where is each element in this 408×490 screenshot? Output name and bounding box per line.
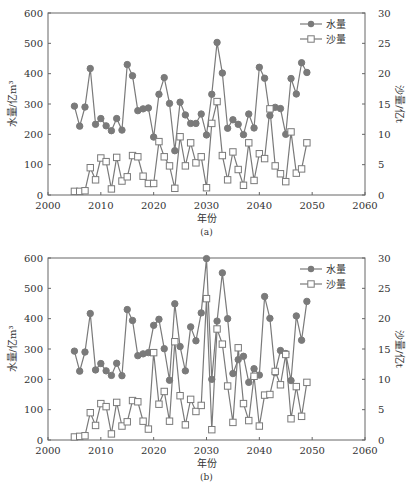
data-point-circle: [113, 360, 119, 366]
y-tick-label: 200: [24, 374, 43, 385]
chart-svg: 2000201020202030204020502060010020030040…: [0, 0, 408, 245]
data-point-circle: [198, 111, 204, 117]
data-point-square: [203, 185, 209, 191]
data-point-square: [172, 185, 178, 191]
data-point-square: [193, 160, 199, 166]
y-tick-label: 200: [24, 129, 43, 140]
data-point-square: [235, 166, 241, 172]
data-point-square: [135, 399, 141, 405]
y-tick-label: 400: [24, 313, 43, 324]
data-point-circle: [124, 306, 130, 312]
data-point-square: [156, 401, 162, 407]
data-point-circle: [108, 372, 114, 378]
data-point-circle: [304, 69, 310, 75]
legend-square-icon: [308, 36, 314, 42]
data-point-circle: [172, 148, 178, 154]
y-tick-label: 300: [24, 99, 43, 110]
series-water: [71, 255, 310, 385]
x-tick-label: 2030: [194, 445, 219, 456]
x-tick-label: 2050: [299, 200, 324, 211]
data-point-square: [214, 326, 220, 332]
data-point-circle: [177, 99, 183, 105]
y2-tick-label: 20: [378, 313, 391, 324]
data-point-square: [230, 149, 236, 155]
data-point-square: [166, 163, 172, 169]
data-point-circle: [288, 377, 294, 383]
data-point-circle: [246, 379, 252, 385]
y-axis-label: 水量/亿m³: [6, 326, 18, 373]
data-point-circle: [235, 121, 241, 127]
data-point-circle: [230, 370, 236, 376]
data-point-circle: [251, 125, 257, 131]
data-point-circle: [71, 348, 77, 354]
data-point-square: [219, 152, 225, 158]
data-point-circle: [193, 338, 199, 344]
data-point-circle: [246, 111, 252, 117]
data-point-circle: [156, 91, 162, 97]
data-point-square: [103, 403, 109, 409]
data-point-circle: [203, 132, 209, 138]
data-point-circle: [293, 91, 299, 97]
data-point-circle: [182, 368, 188, 374]
data-point-circle: [108, 127, 114, 133]
data-point-circle: [277, 105, 283, 111]
data-point-square: [272, 163, 278, 169]
x-tick-label: 2010: [88, 445, 113, 456]
chart-panel-a: 2000201020202030204020502060010020030040…: [0, 0, 408, 245]
data-point-circle: [261, 75, 267, 81]
data-point-square: [145, 426, 151, 432]
data-point-circle: [161, 74, 167, 80]
data-point-circle: [193, 120, 199, 126]
data-point-square: [161, 388, 167, 394]
data-point-circle: [71, 103, 77, 109]
data-point-circle: [77, 123, 83, 129]
y-tick-label: 400: [24, 68, 43, 79]
plot-area: [48, 13, 365, 195]
data-point-circle: [219, 70, 225, 76]
y2-tick-label: 25: [378, 38, 391, 49]
data-point-square: [251, 373, 257, 379]
data-point-circle: [98, 115, 104, 121]
data-point-circle: [92, 121, 98, 127]
x-tick-label: 2040: [247, 445, 272, 456]
data-point-square: [92, 422, 98, 428]
data-point-circle: [240, 131, 246, 137]
data-point-circle: [298, 337, 304, 343]
legend-label: 沙量: [326, 279, 346, 290]
y-tick-label: 100: [24, 404, 43, 415]
y2-tick-label: 0: [378, 435, 384, 446]
data-point-square: [140, 173, 146, 179]
data-point-square: [87, 165, 93, 171]
data-point-circle: [103, 123, 109, 129]
data-point-circle: [240, 353, 246, 359]
data-point-circle: [77, 368, 83, 374]
data-point-circle: [172, 301, 178, 307]
data-point-circle: [203, 255, 209, 261]
data-point-square: [240, 182, 246, 188]
data-point-circle: [87, 65, 93, 71]
y2-tick-label: 0: [378, 190, 384, 201]
data-point-square: [177, 393, 183, 399]
data-point-square: [240, 400, 246, 406]
data-point-circle: [87, 310, 93, 316]
data-point-circle: [129, 73, 135, 79]
data-point-circle: [82, 349, 88, 355]
data-point-square: [224, 383, 230, 389]
y2-axis-label: 沙量/亿t: [394, 85, 406, 122]
y-tick-label: 100: [24, 159, 43, 170]
data-point-square: [87, 410, 93, 416]
data-point-circle: [198, 310, 204, 316]
data-point-circle: [230, 117, 236, 123]
series-sediment: [71, 98, 310, 194]
x-tick-label: 2010: [88, 200, 113, 211]
legend-label: 水量: [326, 19, 346, 30]
y-tick-label: 0: [37, 435, 43, 446]
data-point-square: [108, 431, 114, 437]
y2-tick-label: 15: [378, 344, 391, 355]
data-point-square: [113, 154, 119, 160]
data-point-square: [209, 120, 215, 126]
data-point-square: [124, 174, 130, 180]
data-point-circle: [150, 322, 156, 328]
data-point-circle: [214, 318, 220, 324]
data-point-square: [82, 188, 88, 194]
